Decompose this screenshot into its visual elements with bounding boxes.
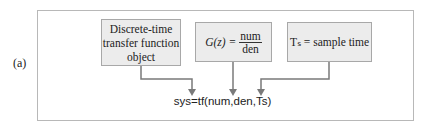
tf-command: sys=tf(num,den,Ts) [0, 95, 445, 107]
arrow-object [141, 66, 192, 92]
connector-arrows [0, 0, 445, 129]
arrow-sample [261, 62, 329, 92]
